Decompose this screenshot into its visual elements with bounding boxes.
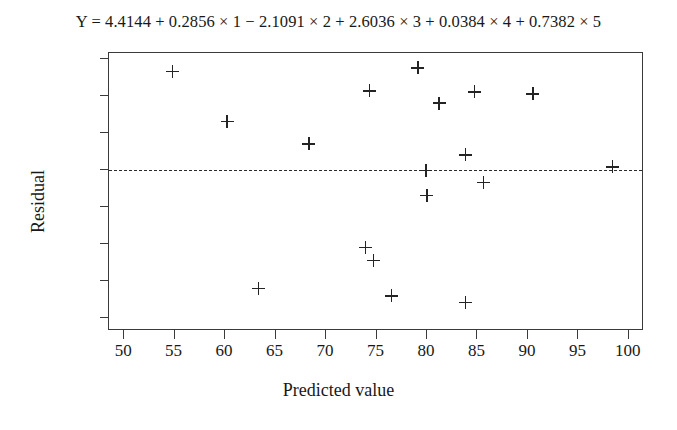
y-tick-mark xyxy=(100,95,108,96)
x-tick-label: 85 xyxy=(468,342,485,359)
y-tick-mark xyxy=(100,317,108,318)
data-point-marker xyxy=(252,282,265,295)
y-axis-label: Residual xyxy=(28,102,49,302)
x-tick-mark xyxy=(174,330,175,339)
data-point-marker xyxy=(367,254,380,267)
x-tick-label: 100 xyxy=(615,342,641,359)
x-tick-label: 75 xyxy=(367,342,384,359)
residual-plot-figure: Y = 4.4144 + 0.2856 × 1 − 2.1091 × 2 + 2… xyxy=(0,0,677,430)
data-point-marker xyxy=(526,87,539,100)
y-tick-mark xyxy=(100,206,108,207)
x-tick-mark xyxy=(527,330,528,339)
x-tick-mark xyxy=(577,330,578,339)
y-tick-mark xyxy=(100,58,108,59)
x-tick-label: 50 xyxy=(115,342,132,359)
data-point-marker xyxy=(420,189,433,202)
x-tick-mark xyxy=(275,330,276,339)
zero-reference-line xyxy=(109,170,642,171)
data-point-marker xyxy=(166,65,179,78)
regression-equation-title: Y = 4.4144 + 0.2856 × 1 − 2.1091 × 2 + 2… xyxy=(0,12,677,32)
y-tick-mark xyxy=(100,243,108,244)
x-tick-label: 80 xyxy=(417,342,434,359)
data-point-marker xyxy=(468,85,481,98)
data-point-marker xyxy=(385,289,398,302)
data-point-marker xyxy=(433,97,446,110)
data-point-marker xyxy=(411,61,424,74)
data-point-marker xyxy=(459,296,472,309)
x-tick-mark xyxy=(325,330,326,339)
data-point-marker xyxy=(221,115,234,128)
x-tick-mark xyxy=(224,330,225,339)
x-tick-mark xyxy=(376,330,377,339)
x-axis-label: Predicted value xyxy=(0,380,677,401)
x-tick-mark xyxy=(426,330,427,339)
data-point-marker xyxy=(477,176,490,189)
x-tick-mark xyxy=(628,330,629,339)
x-tick-label: 65 xyxy=(266,342,283,359)
data-point-marker xyxy=(302,137,315,150)
x-tick-label: 70 xyxy=(317,342,334,359)
x-tick-label: 95 xyxy=(569,342,586,359)
x-tick-label: 60 xyxy=(216,342,233,359)
data-point-marker xyxy=(363,84,376,97)
x-tick-label: 90 xyxy=(518,342,535,359)
y-tick-mark xyxy=(100,169,108,170)
data-point-marker xyxy=(359,241,372,254)
data-point-marker xyxy=(606,160,619,173)
x-tick-label: 55 xyxy=(165,342,182,359)
plot-area xyxy=(108,52,643,330)
y-tick-mark xyxy=(100,132,108,133)
x-tick-mark xyxy=(476,330,477,339)
data-point-marker xyxy=(419,164,432,177)
x-tick-mark xyxy=(123,330,124,339)
y-tick-mark xyxy=(100,280,108,281)
data-point-marker xyxy=(459,148,472,161)
